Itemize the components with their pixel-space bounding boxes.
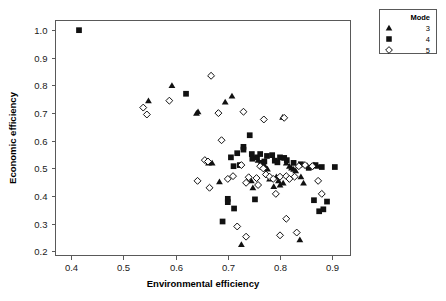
data-point — [169, 82, 176, 88]
y-tick-label: 0.6 — [34, 136, 47, 147]
plot-frame — [56, 21, 351, 256]
data-point — [218, 137, 225, 144]
data-point — [311, 197, 317, 203]
data-point — [269, 152, 275, 158]
data-point — [252, 197, 258, 203]
data-point — [255, 182, 262, 189]
data-point — [272, 190, 279, 197]
data-point — [315, 177, 322, 184]
data-point — [140, 104, 147, 111]
data-point — [240, 108, 247, 115]
y-tick-label: 0.8 — [34, 80, 47, 91]
legend-marker-4 — [386, 36, 392, 42]
data-point — [300, 180, 307, 186]
data-point — [319, 164, 325, 170]
data-point — [229, 93, 236, 99]
data-point — [318, 190, 325, 197]
x-tick-label: 0.4 — [65, 262, 78, 273]
x-axis-tick-labels: 0.40.50.60.70.80.9 — [65, 262, 339, 273]
legend-label-3: 3 — [426, 24, 430, 33]
data-point — [324, 199, 330, 205]
data-point — [220, 219, 226, 225]
data-point — [275, 159, 281, 165]
scatter-plot-figure: 0.40.50.60.70.80.9 0.20.30.40.50.60.70.8… — [0, 0, 446, 301]
data-point — [283, 215, 290, 222]
legend-title: Mode — [410, 13, 430, 22]
legend-label-5: 5 — [426, 46, 430, 55]
data-point — [225, 199, 231, 205]
y-axis-title: Economic efficiency — [7, 91, 18, 184]
y-axis-ticks — [52, 31, 56, 252]
data-point — [253, 175, 260, 182]
data-point — [264, 153, 270, 159]
data-point-markers — [76, 27, 338, 247]
data-point — [194, 177, 201, 184]
data-point — [241, 147, 247, 153]
series-4 — [76, 27, 338, 224]
data-point — [249, 156, 255, 162]
x-tick-label: 0.6 — [170, 262, 183, 273]
data-point — [281, 114, 288, 121]
data-point — [215, 110, 222, 117]
x-tick-label: 0.8 — [274, 262, 287, 273]
legend: Mode 345 — [380, 10, 437, 56]
data-point — [284, 157, 290, 163]
x-tick-label: 0.9 — [326, 262, 339, 273]
data-point — [257, 151, 263, 157]
data-point — [298, 173, 305, 179]
x-tick-label: 0.5 — [117, 262, 130, 273]
y-tick-label: 0.5 — [34, 163, 47, 174]
y-tick-label: 0.7 — [34, 108, 47, 119]
data-point — [270, 183, 277, 189]
y-tick-label: 1.0 — [34, 25, 47, 36]
data-point — [183, 91, 189, 97]
data-point — [76, 27, 82, 33]
y-tick-label: 0.4 — [34, 191, 47, 202]
data-point — [320, 206, 326, 212]
data-point — [228, 155, 234, 161]
y-tick-label: 0.2 — [34, 246, 47, 257]
data-point — [234, 150, 240, 156]
legend-label-4: 4 — [426, 35, 430, 44]
data-point — [231, 206, 237, 212]
y-tick-label: 0.9 — [34, 53, 47, 64]
x-axis-title: Environmental efficiency — [147, 278, 260, 289]
data-point — [206, 184, 213, 191]
data-point — [243, 233, 250, 240]
data-point — [261, 159, 267, 165]
y-axis-tick-labels: 0.20.30.40.50.60.70.80.91.0 — [34, 25, 47, 257]
data-point — [332, 164, 338, 170]
data-point — [222, 99, 229, 105]
data-point — [143, 111, 150, 118]
chart-canvas: 0.40.50.60.70.80.9 0.20.30.40.50.60.70.8… — [0, 0, 446, 301]
data-point — [145, 97, 152, 103]
x-tick-label: 0.7 — [222, 262, 235, 273]
data-point — [296, 237, 303, 243]
data-point — [208, 72, 215, 79]
data-point — [291, 160, 297, 166]
data-point — [293, 229, 300, 236]
data-point — [260, 116, 267, 123]
data-point — [247, 132, 253, 138]
data-point — [216, 178, 223, 184]
data-point — [231, 163, 237, 169]
data-point — [166, 97, 173, 104]
data-point — [238, 241, 245, 247]
x-axis-ticks — [72, 256, 333, 260]
data-point — [234, 223, 241, 230]
data-point — [277, 232, 284, 239]
y-tick-label: 0.3 — [34, 219, 47, 230]
